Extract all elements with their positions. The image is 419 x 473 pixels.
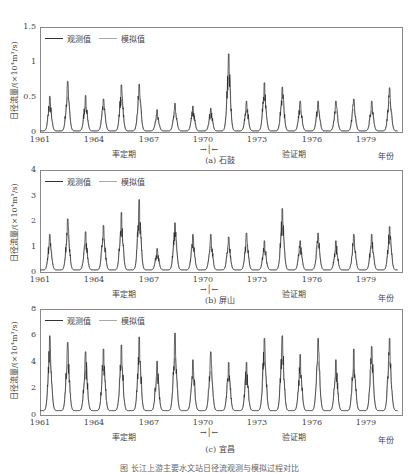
legend-simulated-line (99, 320, 117, 321)
legend-observed-line (45, 320, 63, 321)
x-tick: 1967 (139, 418, 159, 427)
period-divider-arrows: →│← (200, 428, 218, 437)
validation-label: 验证期 (282, 431, 306, 442)
y-axis-label: 日径流量/(×10⁴m³/s) (8, 321, 19, 400)
x-tick: 1976 (302, 418, 322, 427)
x-tick: 1979 (356, 418, 376, 427)
y-tick: 2 (22, 383, 36, 392)
y-tick: 4 (22, 357, 36, 366)
x-tick: 1964 (84, 418, 104, 427)
figure-caption: 图 长江上游主要水文站日径流观测与模拟过程对比 (0, 462, 419, 473)
x-tick: 1961 (30, 418, 50, 427)
x-tick: 1973 (247, 418, 267, 427)
legend: 观测值 模拟值 (45, 315, 145, 326)
y-tick: 6 (22, 330, 36, 339)
x-tick: 1970 (193, 418, 213, 427)
legend-observed-label: 观测值 (67, 315, 91, 326)
panel-title: (c) 宜昌 (205, 443, 234, 454)
year-label: 年份 (378, 434, 394, 445)
y-tick: 8 (22, 304, 36, 313)
calibration-label: 率定期 (112, 431, 136, 442)
legend-simulated-label: 模拟值 (121, 315, 145, 326)
